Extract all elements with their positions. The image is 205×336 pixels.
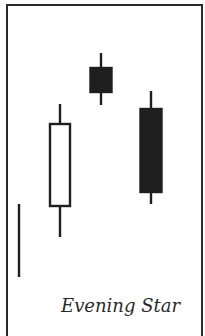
- candle-body: [50, 124, 70, 206]
- candles-group: [50, 53, 162, 237]
- candle-body: [91, 68, 112, 92]
- pattern-title: Evening Star: [61, 295, 180, 316]
- black-candle: [141, 91, 162, 204]
- candle-body: [141, 109, 162, 192]
- star-candle: [91, 53, 112, 105]
- white-candle: [50, 104, 70, 237]
